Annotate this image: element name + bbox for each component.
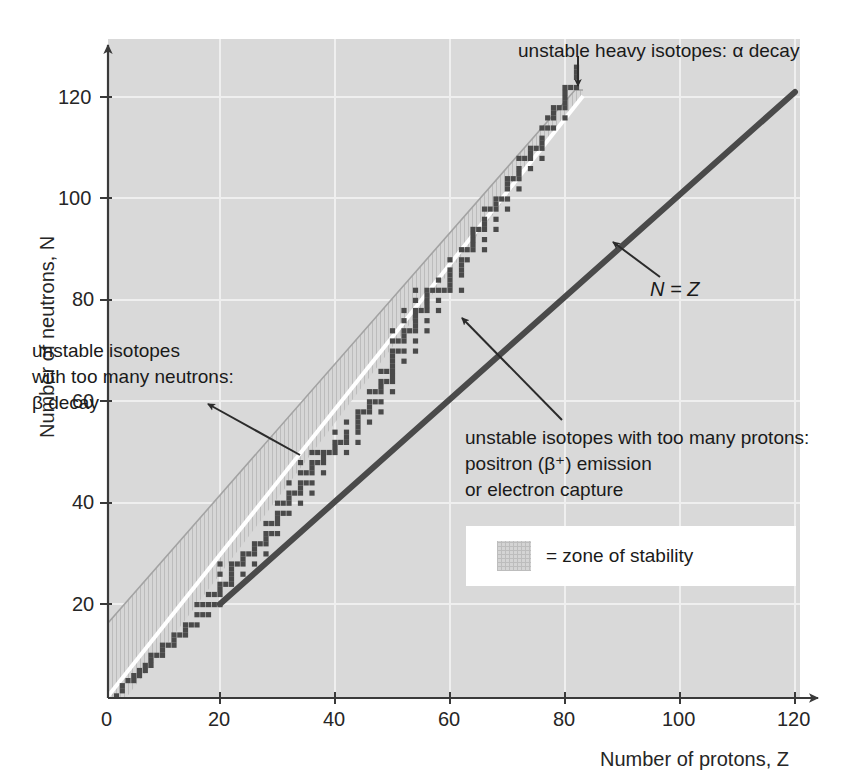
grid-vertical (220, 39, 795, 698)
beta-decay-line-3: β decay (32, 390, 234, 416)
legend-label: = zone of stability (546, 545, 693, 567)
chart-figure: Number of neutrons, N 120 100 80 60 40 2… (0, 0, 848, 782)
beta-plus-line-2: positron (β⁺) emission (465, 451, 809, 477)
beta-plus-line-3: or electron capture (465, 477, 809, 503)
alpha-decay-annotation: unstable heavy isotopes: α decay (518, 38, 799, 64)
alpha-decay-line-1: unstable heavy isotopes: α decay (518, 40, 799, 61)
legend-swatch-zone-of-stability (497, 541, 531, 571)
n-equals-z-label: N = Z (650, 278, 699, 301)
beta-plus-arrow (462, 318, 562, 420)
beta-decay-annotation: unstable isotopes with too many neutrons… (32, 338, 234, 416)
beta-plus-annotation: unstable isotopes with too many protons:… (465, 425, 809, 503)
beta-decay-line-1: unstable isotopes (32, 338, 234, 364)
beta-decay-line-2: with too many neutrons: (32, 364, 234, 390)
n-equals-z-arrow (613, 242, 660, 277)
beta-plus-line-1: unstable isotopes with too many protons: (465, 425, 809, 451)
